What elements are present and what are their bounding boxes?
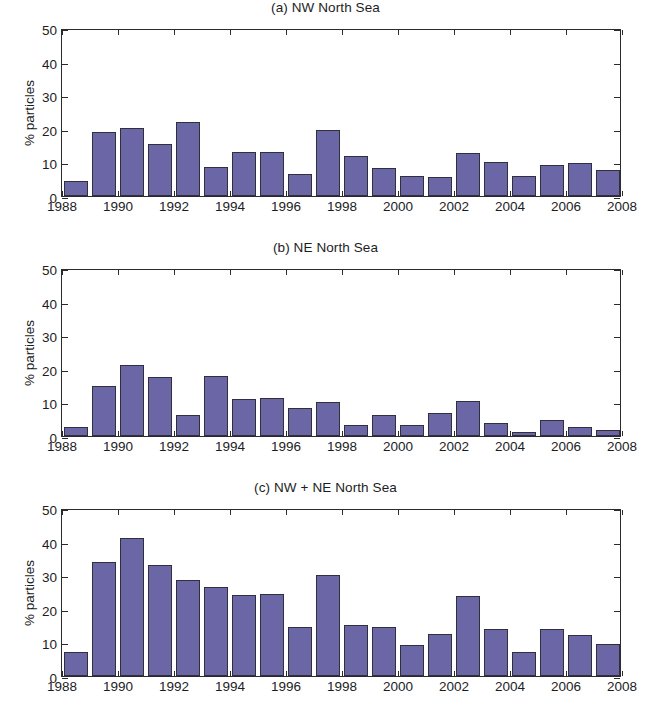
x-axis-tick: [174, 671, 175, 676]
y-axis-tick: [62, 64, 68, 65]
bar: [568, 427, 593, 436]
x-axis-tick-top: [118, 510, 119, 515]
x-axis-tick-label: 1996: [271, 199, 301, 214]
x-axis-tick: [230, 671, 231, 676]
x-axis-tick: [230, 191, 231, 196]
x-axis-tick-label: 1992: [159, 679, 189, 694]
x-axis-tick: [454, 671, 455, 676]
x-axis-tick-top: [398, 270, 399, 275]
x-axis-tick: [398, 191, 399, 196]
y-axis-tick-label: 40: [42, 536, 57, 551]
x-axis-tick: [342, 671, 343, 676]
y-axis-tick: [62, 304, 68, 305]
x-axis-tick: [286, 191, 287, 196]
y-axis-tick-right: [614, 510, 620, 511]
figure-container: (a) NW North Sea % particles 01020304050…: [0, 0, 651, 719]
x-axis-tick-top: [342, 30, 343, 35]
panel-c-plot-area: 0102030405019881990199219941996199820002…: [61, 509, 621, 677]
bar: [232, 152, 257, 196]
x-axis-tick-label: 2008: [607, 199, 637, 214]
y-axis-tick-label: 30: [42, 570, 57, 585]
bar: [400, 176, 425, 196]
y-axis-tick: [62, 544, 68, 545]
x-axis-tick-top: [566, 30, 567, 35]
bar: [512, 652, 537, 676]
y-axis-tick-label: 40: [42, 56, 57, 71]
x-axis-tick: [622, 671, 623, 676]
x-axis-tick-label: 1990: [103, 439, 133, 454]
x-axis-tick-label: 2004: [495, 439, 525, 454]
x-axis-tick-label: 2000: [383, 199, 413, 214]
bar: [596, 430, 621, 436]
x-axis-tick: [118, 671, 119, 676]
bar: [316, 575, 341, 676]
x-axis-tick-top: [398, 510, 399, 515]
x-axis-tick: [510, 431, 511, 436]
bar: [148, 144, 173, 196]
panel-b-plot-area: 0102030405019881990199219941996199820002…: [61, 269, 621, 437]
bar: [316, 130, 341, 196]
bar: [64, 652, 89, 676]
y-axis-tick-label: 20: [42, 363, 57, 378]
x-axis-tick-top: [174, 270, 175, 275]
y-axis-tick-right: [614, 270, 620, 271]
y-axis-tick-right: [614, 544, 620, 545]
x-axis-tick: [342, 191, 343, 196]
x-axis-tick: [174, 431, 175, 436]
x-axis-tick-top: [230, 510, 231, 515]
x-axis-tick-top: [230, 270, 231, 275]
y-axis-tick-label: 30: [42, 330, 57, 345]
y-axis-tick-right: [614, 30, 620, 31]
x-axis-tick-top: [398, 30, 399, 35]
x-axis-tick: [118, 191, 119, 196]
y-axis-tick-right: [614, 304, 620, 305]
bar: [484, 423, 509, 436]
bar: [120, 365, 145, 436]
bar: [456, 153, 481, 196]
panel-a-bars: [62, 30, 620, 196]
y-axis-tick-label: 20: [42, 603, 57, 618]
x-axis-tick-top: [174, 30, 175, 35]
x-axis-tick-top: [286, 270, 287, 275]
y-axis-tick-right: [614, 404, 620, 405]
x-axis-tick-top: [286, 30, 287, 35]
x-axis-tick-top: [286, 510, 287, 515]
x-axis-tick: [454, 191, 455, 196]
x-axis-tick-label: 2006: [551, 679, 581, 694]
x-axis-tick-label: 1988: [47, 199, 77, 214]
bar: [344, 156, 369, 196]
y-axis-tick-right: [614, 337, 620, 338]
bar: [372, 168, 397, 196]
chart-panel-c: (c) NW + NE North Sea % particles 010203…: [0, 480, 651, 719]
bar: [204, 167, 229, 196]
bar: [428, 177, 453, 196]
bar: [232, 595, 257, 676]
x-axis-tick-top: [622, 510, 623, 515]
x-axis-tick: [286, 671, 287, 676]
bar: [512, 432, 537, 436]
x-axis-tick-top: [510, 270, 511, 275]
panel-c-bars: [62, 510, 620, 676]
bar: [176, 580, 201, 676]
panel-b-title: (b) NE North Sea: [0, 240, 651, 255]
bar: [288, 408, 313, 436]
x-axis-tick-label: 2000: [383, 679, 413, 694]
x-axis-tick-top: [62, 510, 63, 515]
y-axis-tick-label: 10: [42, 157, 57, 172]
y-axis-tick: [62, 131, 68, 132]
x-axis-tick: [454, 431, 455, 436]
chart-panel-a: (a) NW North Sea % particles 01020304050…: [0, 0, 651, 240]
x-axis-tick-label: 2004: [495, 199, 525, 214]
x-axis-tick-top: [62, 30, 63, 35]
x-axis-tick-top: [566, 510, 567, 515]
x-axis-tick-label: 1996: [271, 679, 301, 694]
x-axis-tick: [62, 431, 63, 436]
x-axis-tick-top: [622, 30, 623, 35]
x-axis-tick-label: 2004: [495, 679, 525, 694]
x-axis-tick: [118, 431, 119, 436]
bar: [92, 386, 117, 436]
y-axis-tick-label: 50: [42, 263, 57, 278]
bar: [204, 587, 229, 676]
bar: [568, 635, 593, 676]
bar: [400, 425, 425, 436]
